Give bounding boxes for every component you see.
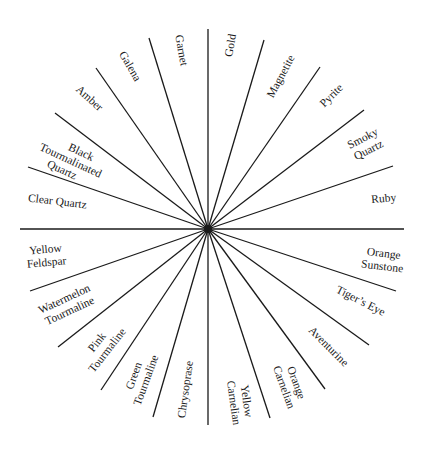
- label-orange-carnelian: Orange Carnelian: [271, 360, 310, 411]
- divider-line: [208, 110, 364, 229]
- label-galena: Galena: [117, 49, 144, 83]
- label-clear-quartz: Clear Quartz: [27, 191, 87, 210]
- label-tigers-eye: Tiger’s Eye: [334, 283, 387, 319]
- divider-line: [149, 38, 208, 229]
- label-magnetite: Magnetite: [264, 53, 297, 100]
- label-orange-sunstone: Orange Sunstone: [361, 245, 406, 275]
- svg-text:Clear Quartz: Clear Quartz: [27, 191, 87, 210]
- divider-line: [208, 67, 320, 229]
- label-gold: Gold: [222, 33, 238, 58]
- svg-text:Amber: Amber: [74, 83, 106, 113]
- label-amber: Amber: [74, 83, 106, 113]
- label-green-tourmaline: Green Tourmaline: [119, 349, 161, 407]
- svg-text:Galena: Galena: [117, 49, 144, 83]
- label-smoky-quartz: Smoky Quartz: [345, 125, 386, 162]
- label-ruby: Ruby: [371, 191, 397, 206]
- divider-line: [96, 68, 208, 229]
- divider-line: [208, 229, 325, 389]
- label-chrysoprase: Chrysoprase: [175, 360, 196, 419]
- svg-text:Ruby: Ruby: [371, 191, 397, 206]
- svg-text:Feldspar: Feldspar: [26, 254, 67, 270]
- svg-text:Aventurine: Aventurine: [307, 324, 351, 368]
- divider-line: [208, 40, 264, 229]
- label-garnet: Garnet: [173, 34, 190, 68]
- svg-text:Chrysoprase: Chrysoprase: [175, 360, 196, 419]
- svg-text:Garnet: Garnet: [173, 34, 190, 68]
- svg-text:Magnetite: Magnetite: [264, 53, 297, 100]
- label-pyrite: Pyrite: [317, 81, 346, 110]
- crystal-wheel-diagram: Gold Magnetite Pyrite Smoky Quartz Ruby …: [0, 0, 426, 454]
- label-yellow-feldspar: Yellow Feldspar: [25, 241, 67, 270]
- label-watermelon-tourmaline: Watermelon Tourmaline: [36, 281, 97, 327]
- label-aventurine: Aventurine: [307, 324, 351, 368]
- divider-line: [208, 166, 393, 229]
- svg-text:Gold: Gold: [222, 33, 238, 58]
- svg-text:Tiger’s Eye: Tiger’s Eye: [334, 283, 387, 319]
- svg-text:Pyrite: Pyrite: [317, 81, 346, 110]
- label-yellow-carnelian: Yellow Carnelian: [225, 378, 256, 426]
- center-hub: [204, 225, 212, 233]
